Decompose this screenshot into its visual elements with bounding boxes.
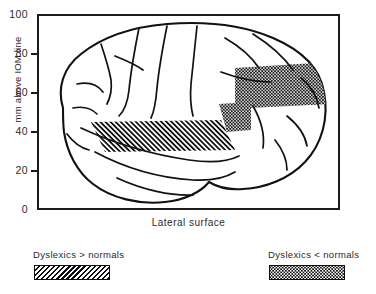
y-tick-label-20: 20: [16, 165, 28, 176]
legend-dyslexics-greater: Dyslexics > normals: [33, 250, 124, 280]
y-tick-label-100: 100: [9, 9, 28, 20]
legend-dyslexics-less: Dyslexics < normals: [268, 250, 359, 280]
brain-lateral-diagram: [39, 16, 338, 208]
legend-label-dyslexics-greater: Dyslexics > normals: [33, 250, 124, 260]
region-dyslexics-greater-than-normals: [91, 120, 235, 152]
legend-label-dyslexics-less: Dyslexics < normals: [268, 250, 359, 260]
y-tick-label-0: 0: [22, 204, 28, 215]
figure-root: 100 80 60 40 20 0 mm above IOM line: [0, 0, 376, 294]
legend-swatch-hatch: [34, 265, 110, 280]
x-axis-caption: Lateral surface: [37, 217, 340, 228]
y-axis-title: mm above IOM line: [12, 25, 23, 135]
legend-swatch-stipple: [269, 265, 345, 280]
